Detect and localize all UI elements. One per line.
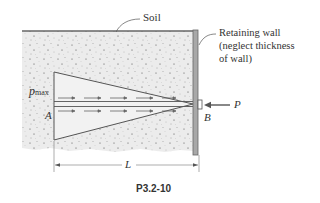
wall-leader-line bbox=[199, 34, 216, 45]
load-arrow-head bbox=[204, 102, 211, 108]
soil-label: Soil bbox=[143, 11, 161, 23]
anchor-plate bbox=[198, 100, 202, 109]
length-l-label: L bbox=[125, 158, 131, 170]
load-p-label: P bbox=[234, 98, 241, 110]
p-max-label: pmax bbox=[29, 84, 49, 99]
wall-label-line-3: of wall) bbox=[219, 52, 295, 65]
dimension-arrow-right bbox=[193, 163, 198, 166]
point-b-label: B bbox=[204, 111, 211, 123]
soil-leader-line bbox=[116, 19, 140, 32]
wall-label: Retaining wall (neglect thickness of wal… bbox=[219, 26, 295, 65]
wall-label-line-1: Retaining wall bbox=[219, 26, 295, 39]
point-a-label: A bbox=[45, 109, 52, 121]
p-max-subscript: max bbox=[35, 88, 49, 97]
dimension-arrow-left bbox=[55, 163, 60, 166]
retaining-wall bbox=[193, 30, 198, 155]
wall-label-line-2: (neglect thickness bbox=[219, 39, 295, 52]
figure-caption: P3.2-10 bbox=[136, 183, 171, 194]
